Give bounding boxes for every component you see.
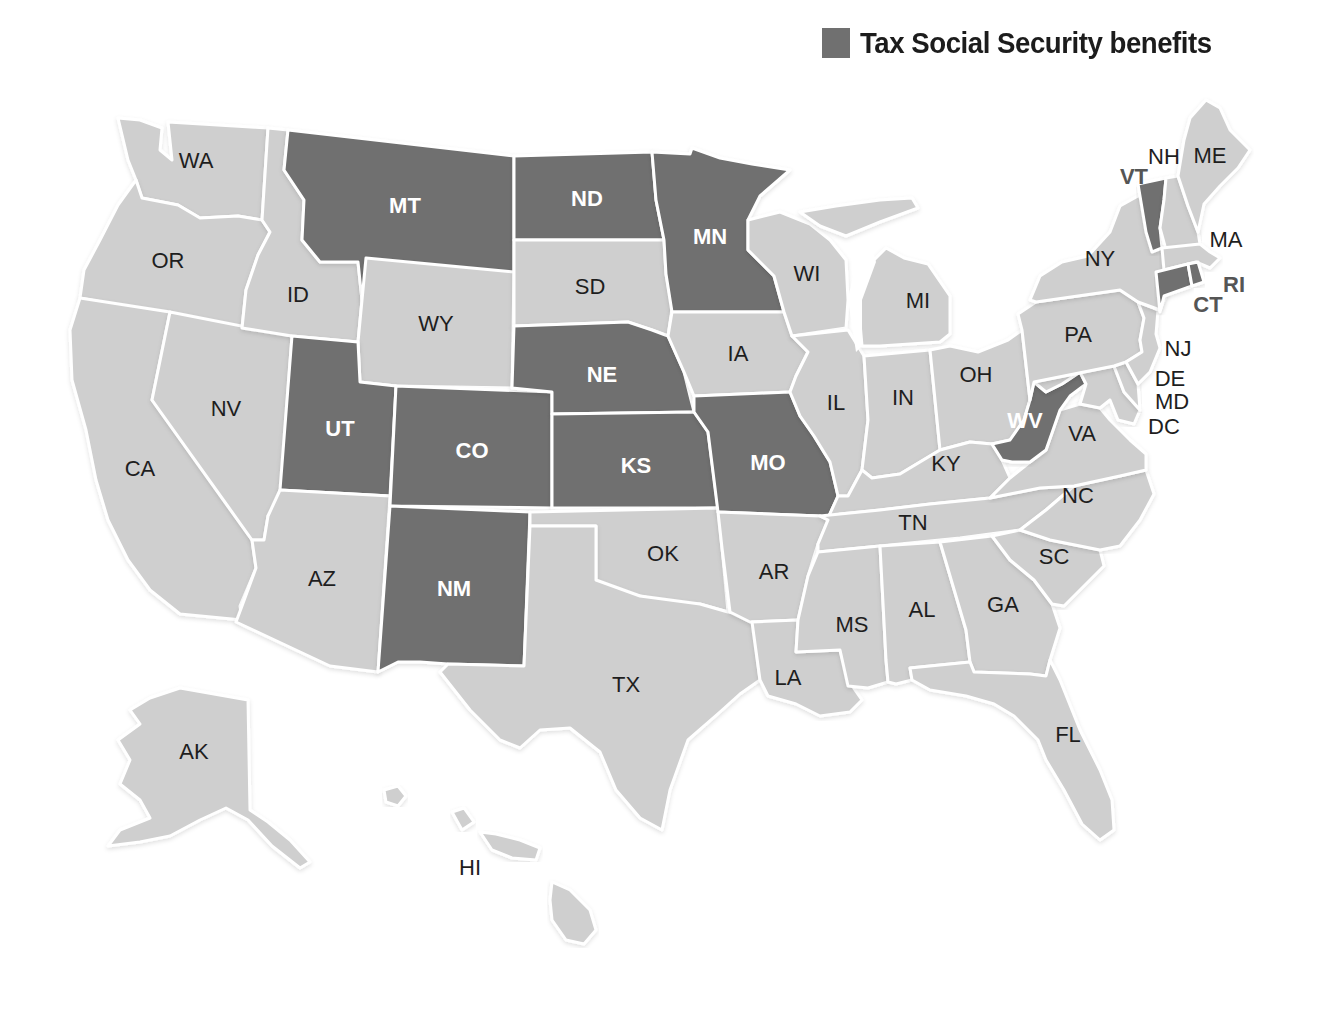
- label-wv: WV: [1007, 408, 1043, 433]
- label-me: ME: [1194, 143, 1227, 168]
- state-ak[interactable]: [108, 688, 310, 868]
- label-id: ID: [287, 282, 309, 307]
- label-ct: CT: [1193, 292, 1223, 317]
- label-nm: NM: [437, 576, 471, 601]
- label-ri: RI: [1223, 272, 1245, 297]
- label-wa: WA: [179, 148, 214, 173]
- label-ks: KS: [621, 453, 652, 478]
- label-az: AZ: [308, 566, 336, 591]
- label-co: CO: [456, 438, 489, 463]
- label-fl: FL: [1055, 722, 1081, 747]
- label-de: DE: [1155, 366, 1186, 391]
- label-nh: NH: [1148, 144, 1180, 169]
- state-hi-maui-molokai[interactable]: [480, 832, 540, 860]
- label-ia: IA: [728, 341, 749, 366]
- label-ar: AR: [759, 559, 790, 584]
- label-wy: WY: [418, 311, 454, 336]
- label-or: OR: [152, 248, 185, 273]
- label-pa: PA: [1064, 322, 1092, 347]
- label-ut: UT: [325, 416, 355, 441]
- label-ga: GA: [987, 592, 1019, 617]
- label-nd: ND: [571, 186, 603, 211]
- label-oh: OH: [960, 362, 993, 387]
- label-mi: MI: [906, 288, 930, 313]
- label-sd: SD: [575, 274, 606, 299]
- state-fl[interactable]: [910, 660, 1114, 840]
- state-ct[interactable]: [1156, 264, 1192, 312]
- label-ms: MS: [836, 612, 869, 637]
- label-mt: MT: [389, 193, 421, 218]
- label-ak: AK: [179, 739, 209, 764]
- label-in: IN: [892, 385, 914, 410]
- label-va: VA: [1068, 421, 1096, 446]
- label-ok: OK: [647, 541, 679, 566]
- label-tn: TN: [898, 510, 927, 535]
- label-nv: NV: [211, 396, 242, 421]
- state-hi-niihau-kauai[interactable]: [384, 786, 406, 806]
- label-mo: MO: [750, 450, 785, 475]
- state-hi-big-island[interactable]: [550, 882, 596, 944]
- label-ne: NE: [587, 362, 618, 387]
- label-dc: DC: [1148, 414, 1180, 439]
- label-tx: TX: [612, 672, 640, 697]
- label-il: IL: [827, 390, 845, 415]
- label-ky: KY: [931, 451, 961, 476]
- label-hi: HI: [459, 855, 481, 880]
- label-ma: MA: [1210, 227, 1243, 252]
- label-md: MD: [1155, 389, 1189, 414]
- label-wi: WI: [794, 261, 821, 286]
- label-ca: CA: [125, 456, 156, 481]
- label-nj: NJ: [1165, 336, 1192, 361]
- label-vt: VT: [1120, 164, 1149, 189]
- label-mn: MN: [693, 224, 727, 249]
- label-la: LA: [775, 665, 802, 690]
- label-al: AL: [909, 597, 936, 622]
- label-sc: SC: [1039, 544, 1070, 569]
- label-ny: NY: [1085, 246, 1116, 271]
- label-nc: NC: [1062, 483, 1094, 508]
- state-hi-oahu[interactable]: [452, 808, 474, 830]
- us-map: WA OR CA ID NV MT WY UT AZ CO NM ND SD N…: [0, 0, 1320, 1009]
